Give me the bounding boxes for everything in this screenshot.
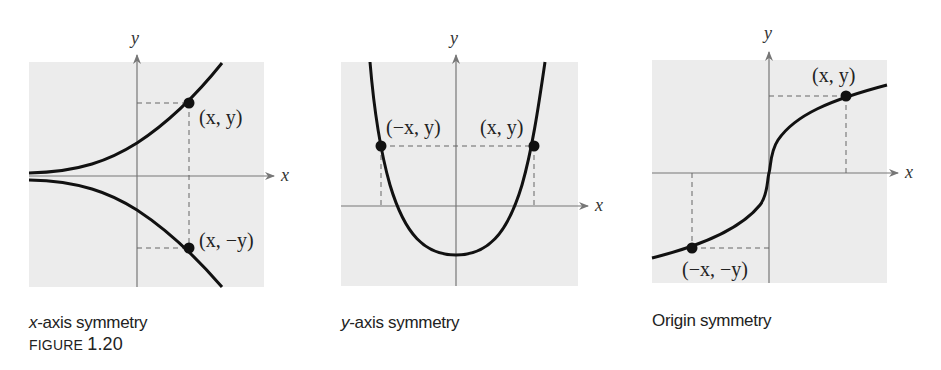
point-label: (x, y) bbox=[480, 116, 523, 139]
panel-y-axis-symmetry: x y (−x, y) (x, y) bbox=[341, 28, 603, 286]
point-x-neg-y bbox=[184, 243, 195, 254]
caption-origin-symmetry: Origin symmetry bbox=[652, 311, 771, 331]
caption-text: -axis symmetry bbox=[349, 313, 459, 332]
caption-variable: y bbox=[341, 313, 349, 332]
x-axis-label: x bbox=[280, 165, 289, 185]
plot-background bbox=[341, 62, 578, 286]
panel-x-axis-symmetry: x y (x, y) (x, −y) bbox=[29, 28, 289, 287]
figure-num: 1.20 bbox=[87, 334, 123, 354]
caption-variable: x bbox=[29, 313, 37, 332]
point-x-y bbox=[529, 141, 540, 152]
y-axis-label: y bbox=[448, 28, 458, 48]
x-axis-label: x bbox=[594, 195, 603, 215]
figure-label: FIGURE bbox=[29, 337, 83, 353]
point-label: (x, y) bbox=[199, 106, 242, 129]
panel-origin-symmetry: x y (x, y) (−x, −y) bbox=[652, 23, 913, 283]
caption-y-axis-symmetry: y-axis symmetry bbox=[341, 313, 459, 333]
point-label: (x, −y) bbox=[199, 229, 254, 252]
caption-text: Origin symmetry bbox=[652, 311, 771, 330]
figure-number: FIGURE 1.20 bbox=[29, 334, 123, 355]
y-axis-label: y bbox=[762, 23, 772, 43]
point-x-y bbox=[841, 91, 852, 102]
point-neg-x-neg-y bbox=[687, 243, 698, 254]
plot-background bbox=[29, 62, 264, 287]
y-axis-label: y bbox=[129, 28, 139, 48]
point-label: (x, y) bbox=[812, 64, 855, 87]
x-axis-label: x bbox=[904, 162, 913, 182]
caption-text: -axis symmetry bbox=[37, 313, 147, 332]
point-neg-x-y bbox=[376, 141, 387, 152]
point-x-y bbox=[184, 98, 195, 109]
point-label: (−x, y) bbox=[386, 116, 441, 139]
caption-x-axis-symmetry: x-axis symmetry bbox=[29, 313, 147, 333]
point-label: (−x, −y) bbox=[682, 258, 748, 281]
